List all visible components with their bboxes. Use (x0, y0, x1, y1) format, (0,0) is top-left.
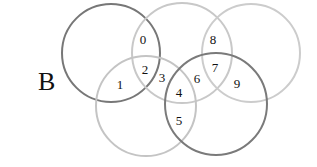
venn-diagram: B 0123456789 (0, 0, 317, 167)
region-label-4: 4 (176, 85, 183, 100)
region-label-3: 3 (159, 70, 166, 85)
region-label-9: 9 (234, 76, 241, 91)
region-label-1: 1 (117, 77, 124, 92)
region-label-7: 7 (212, 60, 219, 75)
region-labels: 0123456789 (117, 32, 241, 128)
circle-group (62, 3, 300, 156)
region-label-2: 2 (142, 62, 149, 77)
region-label-6: 6 (194, 71, 201, 86)
figure-label: B (38, 67, 55, 96)
region-label-0: 0 (140, 32, 147, 47)
region-label-5: 5 (176, 113, 183, 128)
region-label-8: 8 (210, 32, 217, 47)
